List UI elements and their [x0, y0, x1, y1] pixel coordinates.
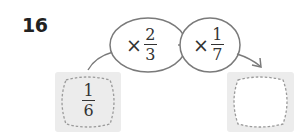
operation-2-numerator: 1	[212, 26, 222, 43]
answer-input[interactable]	[238, 80, 283, 124]
operation-2-denominator: 7	[212, 46, 222, 63]
operation-1-numerator: 2	[145, 26, 155, 43]
operation-1-denominator: 3	[145, 46, 155, 63]
multiply-icon: ×	[126, 34, 142, 56]
operation-2: × 1 7	[193, 26, 224, 63]
start-denominator: 6	[83, 102, 93, 119]
operation-1: × 2 3	[126, 26, 157, 63]
start-fraction: 1 6	[82, 82, 95, 119]
multiply-icon: ×	[193, 34, 209, 56]
start-numerator: 1	[83, 82, 93, 99]
